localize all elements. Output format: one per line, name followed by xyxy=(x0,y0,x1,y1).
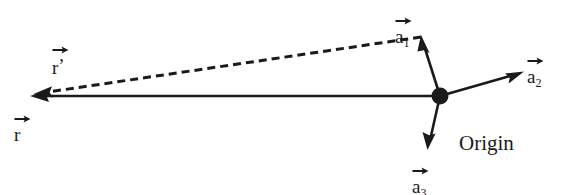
vector-diagram: r r’ a1 a2 xyxy=(0,0,577,195)
vector-arrow-accent-icon xyxy=(527,56,544,65)
vector-label-r: r xyxy=(14,125,20,144)
vector-arrow-accent-icon xyxy=(52,45,69,54)
vector-label-r-prime-mark: ’ xyxy=(58,55,64,76)
vector-r-prime-shaft xyxy=(48,37,421,92)
vector-a3-arrowhead xyxy=(423,132,436,150)
vector-r-prime xyxy=(33,37,421,98)
vector-label-a1: a1 xyxy=(395,27,409,49)
vector-a2-shaft xyxy=(440,76,510,96)
origin-dot xyxy=(432,88,449,105)
vector-a3 xyxy=(423,96,441,150)
vector-r xyxy=(30,90,440,102)
vector-a2 xyxy=(440,72,524,97)
vector-label-a1-subscript: 1 xyxy=(403,36,409,50)
vector-canvas xyxy=(0,0,577,195)
vector-label-a2: a2 xyxy=(527,67,541,89)
vector-label-r-base: r xyxy=(14,125,20,144)
origin-label: Origin xyxy=(459,131,514,156)
vector-arrow-accent-icon xyxy=(412,166,429,175)
vector-label-a2-subscript: 2 xyxy=(535,76,541,90)
vector-label-r-prime: r’ xyxy=(52,56,65,77)
vector-arrow-accent-icon xyxy=(14,114,31,123)
vector-label-a3: a3 xyxy=(412,177,426,195)
vector-label-a3-subscript: 3 xyxy=(420,186,426,195)
vector-a1 xyxy=(417,35,440,96)
vector-arrow-accent-icon xyxy=(395,16,412,25)
